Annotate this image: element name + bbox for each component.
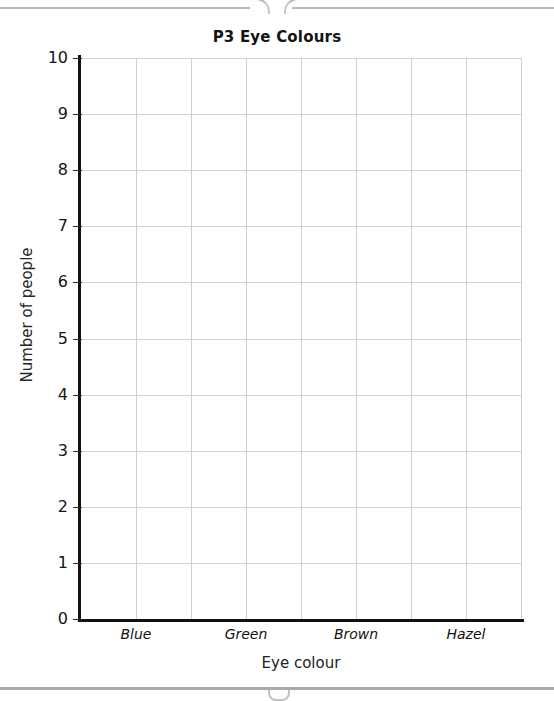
x-axis-category-label: Hazel bbox=[411, 626, 521, 642]
y-axis-tick-label: 6 bbox=[34, 274, 68, 290]
y-axis-tick-label: 7 bbox=[34, 218, 68, 234]
y-axis-title: Number of people bbox=[18, 245, 36, 385]
plot-area[interactable] bbox=[81, 58, 521, 619]
y-axis-tick-label: 4 bbox=[34, 387, 68, 403]
gridlines bbox=[81, 58, 521, 619]
y-axis-tick bbox=[73, 226, 82, 227]
page-footer-chrome bbox=[0, 684, 554, 701]
x-axis-line bbox=[78, 619, 524, 622]
gridline-vertical bbox=[521, 58, 522, 619]
x-axis-category-label: Green bbox=[191, 626, 301, 642]
tab-strip-edge-left bbox=[0, 7, 250, 9]
y-axis-tick-label: 8 bbox=[34, 162, 68, 178]
y-axis-tick bbox=[73, 282, 82, 283]
y-axis-tick bbox=[73, 395, 82, 396]
y-axis-tick-label: 1 bbox=[34, 555, 68, 571]
y-axis-tick bbox=[73, 339, 82, 340]
y-axis-tick bbox=[73, 170, 82, 171]
bar-chart-worksheet: P3 Eye Colours Number of people 01234567… bbox=[0, 14, 554, 684]
y-axis-tick-label: 2 bbox=[34, 499, 68, 515]
x-axis-title: Eye colour bbox=[81, 654, 521, 672]
gridline-vertical bbox=[411, 58, 412, 619]
x-axis-category-label: Brown bbox=[301, 626, 411, 642]
y-axis-tick-label: 3 bbox=[34, 443, 68, 459]
gridline-vertical bbox=[466, 58, 467, 619]
y-axis-tick-label: 9 bbox=[34, 106, 68, 122]
y-axis-tick bbox=[73, 619, 82, 620]
y-axis-tick bbox=[73, 114, 82, 115]
tab-strip-edge-right bbox=[292, 7, 554, 9]
y-axis-tick bbox=[73, 58, 82, 59]
y-axis-tick-label: 5 bbox=[34, 331, 68, 347]
browser-tab-strip bbox=[0, 0, 554, 14]
scroll-indicator-nub bbox=[268, 690, 290, 701]
gridline-vertical bbox=[301, 58, 302, 619]
y-axis-tick bbox=[73, 451, 82, 452]
y-axis-tick bbox=[73, 563, 82, 564]
gridline-vertical bbox=[246, 58, 247, 619]
tab-corner-left-icon bbox=[248, 0, 270, 14]
y-axis-tick-label: 0 bbox=[34, 611, 68, 627]
y-axis-tick bbox=[73, 507, 82, 508]
gridline-vertical bbox=[191, 58, 192, 619]
gridline-vertical bbox=[356, 58, 357, 619]
chart-title: P3 Eye Colours bbox=[0, 28, 554, 46]
x-axis-category-label: Blue bbox=[81, 626, 191, 642]
gridline-vertical bbox=[136, 58, 137, 619]
y-axis-tick-label: 10 bbox=[34, 50, 68, 66]
